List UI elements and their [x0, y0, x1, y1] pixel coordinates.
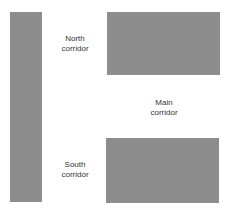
main-corridor-label: Main corridor [144, 98, 184, 118]
north-corridor-label-line1: North [55, 34, 95, 44]
south-corridor-label-line2: corridor [55, 170, 95, 180]
south-block [106, 138, 219, 203]
north-corridor-label-line2: corridor [55, 44, 95, 54]
main-corridor-label-line2: corridor [144, 108, 184, 118]
north-block [107, 12, 220, 75]
south-corridor-label: South corridor [55, 160, 95, 180]
north-corridor-label: North corridor [55, 34, 95, 54]
south-corridor-label-line1: South [55, 160, 95, 170]
floor-plan-diagram: North corridor Main corridor South corri… [0, 0, 229, 210]
left-wall-block [10, 12, 42, 202]
main-corridor-label-line1: Main [144, 98, 184, 108]
